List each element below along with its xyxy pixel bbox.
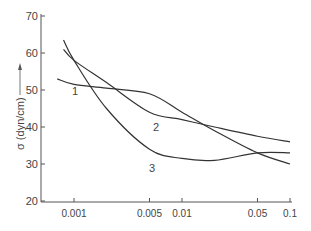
x-ticks: 0.0010.0050.010.050.1 (61, 198, 297, 219)
curve-2 (64, 49, 290, 142)
x-tick-label: 0.005 (137, 208, 162, 219)
y-label-text: σ (dyn/cm) (14, 97, 26, 150)
curve-1 (57, 79, 290, 164)
y-tick-label: 60 (26, 47, 38, 59)
y-tick-label: 50 (26, 84, 38, 96)
curve-labels: 123 (72, 85, 159, 174)
y-tick-label: 30 (26, 158, 38, 170)
curve-label-3: 3 (149, 162, 155, 174)
curve-3 (64, 40, 290, 161)
y-tick-label: 40 (26, 121, 38, 133)
x-tick-label: 0.01 (172, 208, 192, 219)
surface-tension-chart: 203040506070 0.0010.0050.010.050.1 σ (dy… (0, 0, 311, 231)
curve-label-1: 1 (72, 85, 78, 97)
y-tick-label: 70 (26, 10, 38, 22)
y-axis-label: σ (dyn/cm) (14, 63, 26, 150)
x-tick-label: 0.1 (283, 208, 297, 219)
arrow-head-icon (18, 63, 22, 70)
y-tick-label: 20 (26, 195, 38, 207)
curves (57, 40, 290, 164)
x-tick-label: 0.001 (61, 208, 86, 219)
y-ticks: 203040506070 (26, 10, 45, 207)
curve-label-2: 2 (153, 121, 159, 133)
x-tick-label: 0.05 (248, 208, 268, 219)
